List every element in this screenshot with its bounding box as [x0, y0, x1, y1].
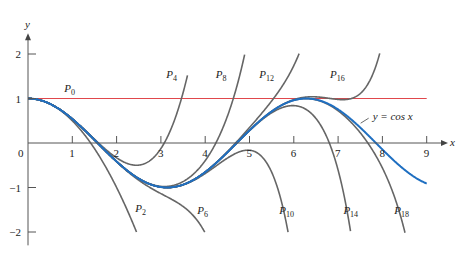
label-p12: P12	[258, 68, 274, 83]
x-tick-label: 7	[335, 147, 341, 159]
x-axis-arrow-icon	[441, 140, 448, 146]
x-tick-label: 4	[202, 147, 208, 159]
label-p16: P16	[329, 68, 345, 83]
y-tick-label: −1	[9, 182, 21, 194]
x-tick-label: 9	[424, 147, 430, 159]
curve-p10	[28, 99, 288, 233]
label-p4: P4	[165, 68, 177, 83]
label-p10: P10	[278, 204, 294, 219]
y-tick-label: 1	[16, 93, 22, 105]
x-axis-label: x	[449, 136, 455, 148]
y-tick-label: 2	[16, 48, 22, 60]
label-p14: P14	[342, 204, 358, 219]
y-tick-label: −2	[9, 226, 21, 238]
x-tick-label: 2	[114, 147, 120, 159]
label-p6: P6	[196, 204, 208, 219]
curve-p16	[28, 53, 380, 187]
annotation-leader	[361, 118, 369, 123]
curve-p6	[28, 99, 205, 233]
curve-labels-group: P0P2P4P6P8P10P12P14P16P18y = cos x	[63, 68, 413, 219]
x-tick-label: 3	[158, 147, 164, 159]
label-p8: P8	[215, 68, 227, 83]
annotation-cos-label: y = cos x	[372, 110, 413, 122]
origin-label: 0	[18, 147, 24, 159]
x-tick-label: 8	[379, 147, 385, 159]
x-tick-label: 1	[69, 147, 75, 159]
taylor-polynomials-chart: x y 0 12345678921−1−2 P0P2P4P6P8P10P12P1…	[0, 0, 460, 263]
x-tick-label: 6	[291, 147, 297, 159]
label-p18: P18	[393, 204, 409, 219]
y-axis-label: y	[24, 18, 30, 30]
label-p2: P2	[134, 202, 146, 217]
axes-group: x y 0	[18, 18, 455, 245]
y-axis-arrow-icon	[25, 33, 31, 40]
label-p0: P0	[63, 82, 75, 97]
x-tick-label: 5	[247, 147, 253, 159]
